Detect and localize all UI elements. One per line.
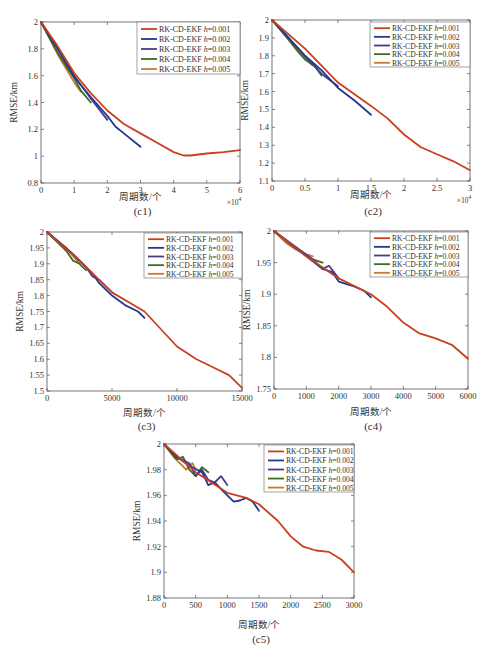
legend-label: RK-CD-EKF h=0.003 <box>286 466 354 475</box>
x-axis-label: 周期数/个 <box>350 189 393 200</box>
y-axis-label: RMSE/km <box>15 291 25 332</box>
legend-label: RK-CD-EKF h=0.005 <box>166 270 234 279</box>
legend-label: RK-CD-EKF h=0.001 <box>392 234 460 243</box>
x-tick-label: 10000 <box>166 393 187 403</box>
y-tick-label: 1.75 <box>256 384 271 394</box>
legend-label: RK-CD-EKF h=0.003 <box>392 42 460 51</box>
x-tick-label: 0 <box>39 185 43 195</box>
y-axis-label: RMSE/km <box>132 500 142 541</box>
y-tick-label: 1.6 <box>27 71 38 81</box>
y-tick-label: 1.3 <box>258 140 269 150</box>
x-tick-label: 3000 <box>346 600 363 610</box>
legend-label: RK-CD-EKF h=0.004 <box>392 50 460 59</box>
y-tick-label: 1.2 <box>27 124 38 134</box>
legend-label: RK-CD-EKF h=0.001 <box>286 447 354 456</box>
legend-label: RK-CD-EKF h=0.004 <box>166 261 234 270</box>
y-tick-label: 1.94 <box>146 516 162 526</box>
y-axis-label: RMSE/km <box>9 82 19 123</box>
legend-label: RK-CD-EKF h=0.004 <box>392 260 460 269</box>
y-tick-label: 1.8 <box>27 44 38 54</box>
y-tick-label: 1.8 <box>258 51 269 61</box>
x-tick-label: 6000 <box>460 391 477 401</box>
y-tick-label: 2 <box>265 15 269 25</box>
y-tick-label: 1.9 <box>258 33 269 43</box>
x-tick-label: 2000 <box>330 391 347 401</box>
panel-caption: (c4) <box>364 420 382 433</box>
x-tick-label: 2000 <box>282 600 299 610</box>
x-tick-label: 0.5 <box>300 183 311 193</box>
x-tick-label: 1500 <box>251 600 268 610</box>
x-tick-label: 5 <box>205 185 209 195</box>
x-tick-label: 3000 <box>363 391 380 401</box>
x-axis-label: 周期数/个 <box>123 407 166 418</box>
y-tick-label: 2 <box>157 439 161 449</box>
legend-label: RK-CD-EKF h=0.005 <box>392 269 460 278</box>
x-tick-label: 1 <box>336 183 340 193</box>
y-tick-label: 1.75 <box>29 307 44 317</box>
legend-label: RK-CD-EKF h=0.005 <box>159 65 230 74</box>
x-tick-label: 4000 <box>395 391 412 401</box>
y-tick-label: 1.7 <box>258 69 269 79</box>
legend-label: RK-CD-EKF h=0.002 <box>392 33 460 42</box>
y-tick-label: 1.85 <box>256 321 271 331</box>
y-tick-label: 1.4 <box>258 122 269 132</box>
y-tick-label: 0.8 <box>27 178 38 188</box>
x-axis-label: 周期数/个 <box>119 191 162 202</box>
x-tick-label: 500 <box>189 600 202 610</box>
legend: RK-CD-EKF h=0.001RK-CD-EKF h=0.002RK-CD-… <box>137 22 240 74</box>
y-tick-label: 1.9 <box>33 259 44 269</box>
x-tick-label: 2 <box>105 185 109 195</box>
x-tick-label: 6 <box>238 185 242 195</box>
legend-label: RK-CD-EKF h=0.001 <box>166 235 234 244</box>
panel-caption: (c3) <box>138 420 156 433</box>
x-tick-label: 2 <box>402 183 406 193</box>
charts-canvas: 0.811.21.41.61.820123456×104RMSE/km周期数/个… <box>0 0 494 654</box>
x-tick-label: 5000 <box>427 391 444 401</box>
y-tick-label: 1.6 <box>258 87 269 97</box>
legend-label: RK-CD-EKF h=0.002 <box>166 244 234 253</box>
panel-caption: (c1) <box>134 205 152 218</box>
y-tick-label: 1.1 <box>258 176 269 186</box>
chart-panel-3: 1.51.551.61.651.71.751.81.851.91.9520500… <box>15 227 253 433</box>
y-tick-label: 2 <box>40 227 44 237</box>
y-tick-label: 1.2 <box>258 158 269 168</box>
y-tick-label: 1.5 <box>33 386 44 396</box>
y-axis-label: RMSE/km <box>240 80 250 121</box>
y-tick-label: 1.96 <box>146 490 161 500</box>
chart-panel-1: 0.811.21.41.61.820123456×104RMSE/km周期数/个… <box>9 17 242 218</box>
y-tick-label: 1.95 <box>256 258 271 268</box>
x-exponent-label: ×104 <box>457 194 472 205</box>
y-tick-label: 1.9 <box>150 567 161 577</box>
chart-panel-5: 1.881.91.921.941.961.9820500100015002000… <box>132 439 363 646</box>
legend: RK-CD-EKF h=0.001RK-CD-EKF h=0.002RK-CD-… <box>264 445 354 493</box>
legend-label: RK-CD-EKF h=0.005 <box>392 59 460 68</box>
x-axis-label: 周期数/个 <box>350 406 393 417</box>
legend-label: RK-CD-EKF h=0.004 <box>286 475 354 484</box>
y-tick-label: 1.65 <box>29 338 44 348</box>
y-tick-label: 1.88 <box>146 593 161 603</box>
chart-panel-4: 1.751.81.851.91.952010002000300040005000… <box>242 226 477 433</box>
x-tick-label: 1000 <box>298 391 315 401</box>
x-tick-label: 0 <box>45 393 49 403</box>
legend-label: RK-CD-EKF h=0.001 <box>392 24 460 33</box>
x-axis-label: 周期数/个 <box>238 619 281 630</box>
x-tick-label: 1 <box>72 185 76 195</box>
x-tick-label: 0 <box>162 600 166 610</box>
legend-label: RK-CD-EKF h=0.004 <box>159 55 230 64</box>
legend-label: RK-CD-EKF h=0.002 <box>286 456 354 465</box>
y-tick-label: 1.98 <box>146 465 161 475</box>
panel-caption: (c5) <box>252 633 270 646</box>
legend-label: RK-CD-EKF h=0.003 <box>166 253 234 262</box>
x-tick-label: 0 <box>272 391 276 401</box>
x-tick-label: 1000 <box>219 600 236 610</box>
y-tick-label: 1.9 <box>260 289 271 299</box>
y-tick-label: 1.5 <box>258 104 269 114</box>
legend-label: RK-CD-EKF h=0.005 <box>286 484 354 493</box>
legend-label: RK-CD-EKF h=0.002 <box>159 35 230 44</box>
panel-caption: (c2) <box>364 205 382 218</box>
y-tick-label: 1.8 <box>260 352 271 362</box>
x-tick-label: 3 <box>468 183 472 193</box>
y-tick-label: 1.85 <box>29 275 44 285</box>
legend-label: RK-CD-EKF h=0.002 <box>392 243 460 252</box>
x-tick-label: 2500 <box>314 600 331 610</box>
